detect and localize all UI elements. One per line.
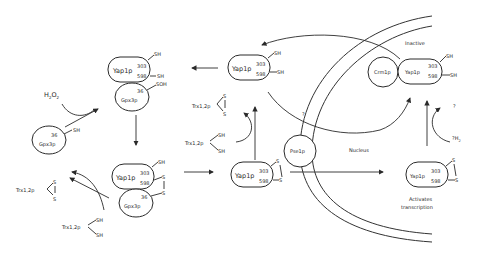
- svg-text:Yap1p: Yap1p: [409, 173, 425, 180]
- svg-text:SH: SH: [96, 217, 103, 223]
- svg-text:Yap1p: Yap1p: [234, 172, 254, 180]
- yap-reduced-cytoplasm: Yap1p 303 598 SH SH: [228, 50, 284, 80]
- svg-text:S: S: [162, 174, 165, 180]
- svg-text:598: 598: [259, 178, 269, 184]
- svg-text:Trx1,2p: Trx1,2p: [191, 103, 210, 110]
- nucleus-label: Nucleus: [349, 147, 369, 153]
- svg-text:303: 303: [140, 170, 150, 176]
- svg-text:303: 303: [259, 168, 269, 174]
- yap-disulfide-cytoplasm: Yap1p 303 598 S S: [231, 158, 282, 187]
- svg-text:303: 303: [431, 168, 441, 174]
- svg-text:S: S: [223, 93, 226, 99]
- svg-text:598: 598: [137, 73, 147, 79]
- svg-text:S: S: [162, 190, 165, 196]
- svg-text:Trx1,2p: Trx1,2p: [15, 187, 34, 194]
- pathway-diagram: Yap1p 303 598 SH SH 36 Gpx3p SOH Yap1p 3…: [0, 0, 481, 256]
- h2o2-label: H2O2: [44, 91, 60, 100]
- svg-text:SH: SH: [446, 53, 453, 59]
- svg-text:SH: SH: [218, 148, 225, 154]
- svg-text:303: 303: [137, 63, 147, 69]
- svg-text:S: S: [455, 177, 458, 183]
- svg-text:598: 598: [256, 71, 266, 77]
- svg-text:S: S: [452, 157, 455, 163]
- yap-label: Yap1p: [112, 67, 132, 75]
- svg-text:transcription: transcription: [401, 204, 433, 211]
- svg-text:598: 598: [140, 180, 150, 186]
- svg-text:SH: SH: [157, 73, 164, 79]
- svg-text:303: 303: [256, 61, 266, 67]
- svg-text:SH: SH: [73, 127, 80, 133]
- gpx-reduced: 36 Gpx3p SH: [32, 126, 80, 154]
- svg-text:S: S: [279, 177, 282, 183]
- svg-text:SH: SH: [158, 159, 165, 165]
- svg-text:SH: SH: [96, 232, 103, 238]
- trx-left: Trx1,2p S S Trx1,2p SH SH: [15, 172, 109, 238]
- h2-label: ?H2: [452, 135, 461, 143]
- svg-text:Gpx3p: Gpx3p: [124, 203, 140, 210]
- svg-text:Pse1p: Pse1p: [290, 148, 305, 155]
- yap-gpx-disulfide-complex: Yap1p 303 598 SH S 36 Gpx3p S: [112, 159, 165, 217]
- svg-text:Activates: Activates: [409, 196, 432, 202]
- trx-middle: Trx1,2p S S Trx1,2p SH SH: [184, 93, 255, 160]
- svg-text:Gpx3p: Gpx3p: [121, 97, 137, 104]
- svg-text:598: 598: [431, 178, 441, 184]
- svg-text:Yap1p: Yap1p: [231, 65, 251, 73]
- svg-text:SH: SH: [274, 50, 281, 56]
- svg-text:303: 303: [428, 63, 438, 69]
- svg-text:Crm1p: Crm1p: [374, 69, 391, 76]
- yap-active-nucleus: Yap1p 303 598 S S Activates transcriptio…: [401, 157, 458, 211]
- svg-text:S: S: [223, 111, 226, 117]
- svg-text:36: 36: [141, 194, 147, 200]
- svg-text:S: S: [53, 179, 56, 185]
- crm-yap-inactive: Inactive Crm1p Yap1p 303 598 SH SH: [368, 40, 457, 87]
- svg-text:Trx1,2p: Trx1,2p: [184, 140, 203, 147]
- svg-text:Gpx3p: Gpx3p: [39, 141, 55, 148]
- svg-text:SH: SH: [218, 132, 225, 138]
- yap-gpx-sulfenic-complex: Yap1p 303 598 SH SH 36 Gpx3p SOH: [108, 51, 167, 111]
- svg-text:S: S: [53, 196, 56, 202]
- svg-text:Trx1,2p: Trx1,2p: [61, 224, 80, 231]
- svg-text:36: 36: [137, 88, 143, 94]
- svg-text:Inactive: Inactive: [405, 40, 425, 46]
- svg-text:598: 598: [428, 73, 438, 79]
- svg-text:?: ?: [453, 103, 456, 109]
- svg-text:S: S: [276, 158, 279, 164]
- oxidation-loop-arrow: [268, 92, 410, 133]
- pse1p: Pse1p: [284, 135, 316, 167]
- svg-text:36: 36: [51, 132, 57, 138]
- svg-text:SH: SH: [277, 69, 284, 75]
- arrow-to-complex: [65, 109, 98, 127]
- svg-text:SOH: SOH: [156, 81, 167, 87]
- svg-text:SH: SH: [450, 72, 457, 78]
- svg-text:Yap1p: Yap1p: [404, 69, 420, 76]
- export-arrow: [262, 35, 400, 59]
- svg-text:Yap1p: Yap1p: [115, 174, 135, 182]
- svg-text:SH: SH: [154, 51, 161, 57]
- svg-text:?: ?: [302, 111, 305, 117]
